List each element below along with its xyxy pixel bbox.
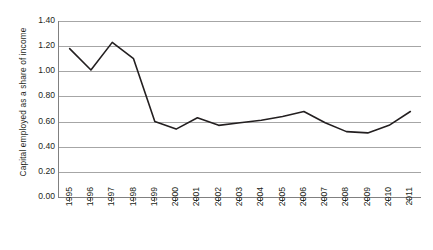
x-axis-tick-label: 2006 (299, 187, 308, 227)
x-axis-tick-label: 2009 (363, 187, 372, 227)
x-axis-tick-label: 2007 (320, 187, 329, 227)
x-axis-tick-label: 1995 (65, 187, 74, 227)
x-axis-tick-label: 2001 (192, 187, 201, 227)
x-axis-tick-label: 2000 (171, 187, 180, 227)
x-axis-tick-labels: 1995199619971998199920002001200220032004… (58, 203, 420, 250)
series-polyline (70, 42, 411, 133)
y-axis-tick-label: 0.40 (22, 142, 55, 151)
y-axis-tick-label: 1.40 (22, 16, 55, 25)
x-axis-tick-label: 2002 (214, 187, 223, 227)
y-axis-tick-label: 0.60 (22, 117, 55, 126)
plot-area (58, 21, 421, 198)
y-axis-tick-labels: 0.000.200.400.600.801.001.201.40 (22, 0, 55, 250)
x-axis-tick-label: 1998 (129, 187, 138, 227)
y-axis-tick-label: 1.20 (22, 41, 55, 50)
y-axis-tick-label: 0.80 (22, 91, 55, 100)
x-axis-tick-label: 2011 (405, 187, 414, 227)
x-axis-tick-label: 2004 (256, 187, 265, 227)
line-chart-figure: Capital employed as a share of income 0.… (0, 0, 433, 250)
x-axis-tick-label: 2005 (278, 187, 287, 227)
data-series-line (59, 21, 421, 197)
y-axis-tick-label: 0.20 (22, 167, 55, 176)
x-axis-tick-label: 2003 (235, 187, 244, 227)
x-axis-tick-label: 1997 (107, 187, 116, 227)
x-axis-tick-label: 1999 (150, 187, 159, 227)
x-axis-tick-label: 2010 (384, 187, 393, 227)
x-axis-tick-label: 1996 (86, 187, 95, 227)
x-axis-tick-label: 2008 (341, 187, 350, 227)
y-axis-tick-label: 0.00 (22, 192, 55, 201)
y-axis-tick-label: 1.00 (22, 66, 55, 75)
